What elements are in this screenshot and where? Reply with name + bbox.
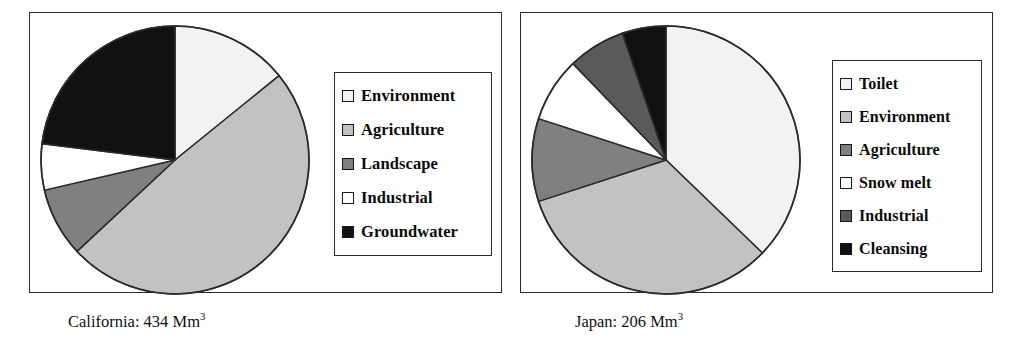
- legend-swatch-icon: [342, 124, 354, 136]
- legend-item[interactable]: Cleansing: [840, 232, 972, 265]
- legend-item-label: Environment: [859, 109, 950, 125]
- legend-item-label: Industrial: [361, 190, 433, 207]
- legend-item[interactable]: Snow melt: [840, 166, 972, 199]
- caption-superscript: 3: [200, 310, 205, 322]
- legend-item-label: Industrial: [859, 208, 928, 224]
- caption-text: Japan: 206 Mm: [575, 312, 678, 331]
- legend-item[interactable]: Environment: [342, 79, 482, 113]
- caption-japan: Japan: 206 Mm3: [575, 310, 683, 332]
- caption-text: California: 434 Mm: [68, 312, 200, 331]
- legend-swatch-icon: [840, 177, 852, 189]
- legend-california: Environment Agriculture Landscape Indust…: [334, 72, 492, 256]
- legend-japan: Toilet Environment Agriculture Snow melt…: [832, 60, 982, 272]
- legend-item[interactable]: Agriculture: [342, 113, 482, 147]
- legend-item-label: Environment: [361, 88, 455, 105]
- legend-item[interactable]: Environment: [840, 100, 972, 133]
- legend-item[interactable]: Landscape: [342, 147, 482, 181]
- chart-panel-japan: Toilet Environment Agriculture Snow melt…: [520, 12, 993, 293]
- legend-item-label: Snow melt: [859, 175, 931, 191]
- legend-swatch-icon: [342, 192, 354, 204]
- legend-item[interactable]: Industrial: [840, 199, 972, 232]
- water-use-figure: Environment Agriculture Landscape Indust…: [0, 0, 1022, 348]
- pie-slice[interactable]: [42, 26, 175, 160]
- legend-item-label: Toilet: [859, 76, 898, 92]
- legend-item[interactable]: Agriculture: [840, 133, 972, 166]
- pie-svg-california: [39, 24, 311, 296]
- pie-chart-california: [39, 24, 311, 296]
- legend-swatch-icon: [342, 226, 354, 238]
- pie-svg-japan: [530, 24, 802, 296]
- caption-superscript: 3: [678, 310, 683, 322]
- legend-swatch-icon: [840, 210, 852, 222]
- legend-item[interactable]: Industrial: [342, 181, 482, 215]
- caption-california: California: 434 Mm3: [68, 310, 205, 332]
- legend-swatch-icon: [840, 144, 852, 156]
- legend-swatch-icon: [840, 111, 852, 123]
- legend-item[interactable]: Groundwater: [342, 215, 482, 249]
- legend-swatch-icon: [342, 90, 354, 102]
- pie-chart-japan: [530, 24, 802, 296]
- legend-item-label: Agriculture: [361, 122, 444, 139]
- legend-item-label: Groundwater: [361, 224, 458, 241]
- legend-swatch-icon: [342, 158, 354, 170]
- chart-panel-california: Environment Agriculture Landscape Indust…: [29, 12, 502, 293]
- legend-swatch-icon: [840, 78, 852, 90]
- legend-item-label: Landscape: [361, 156, 438, 173]
- legend-item[interactable]: Toilet: [840, 67, 972, 100]
- legend-swatch-icon: [840, 243, 852, 255]
- legend-item-label: Cleansing: [859, 241, 927, 257]
- legend-item-label: Agriculture: [859, 142, 940, 158]
